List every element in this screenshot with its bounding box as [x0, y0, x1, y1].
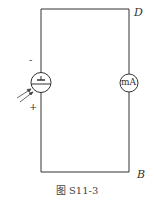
- node-label-b: B: [137, 168, 145, 181]
- circuit-wires: [41, 9, 129, 172]
- minus-sign-label: -: [29, 54, 32, 65]
- phototube-icon: [31, 73, 51, 93]
- plus-sign-label: +: [29, 101, 37, 112]
- node-label-d: D: [134, 6, 143, 19]
- figure-caption: 图 S11-3: [0, 182, 154, 197]
- circuit-diagram: [0, 0, 154, 204]
- meter-label: mA: [121, 77, 136, 87]
